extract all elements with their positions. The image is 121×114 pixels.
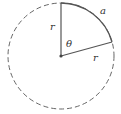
circle-sector-diagram: a r θ r bbox=[0, 0, 121, 114]
radius-vertical-label: r bbox=[50, 21, 56, 32]
diagram-canvas: a r θ r bbox=[0, 0, 121, 114]
center-point bbox=[59, 54, 62, 57]
arc-label: a bbox=[100, 5, 106, 16]
radius-slanted-label: r bbox=[93, 52, 99, 63]
angle-label: θ bbox=[66, 38, 72, 49]
